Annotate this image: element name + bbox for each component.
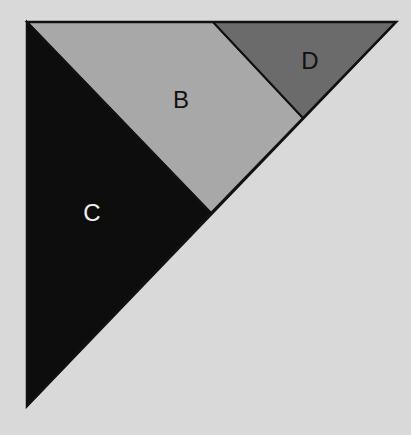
label-c: C bbox=[83, 199, 100, 226]
triangle-diagram: B C D bbox=[0, 0, 411, 435]
label-d: D bbox=[301, 47, 318, 74]
label-b: B bbox=[173, 86, 189, 113]
